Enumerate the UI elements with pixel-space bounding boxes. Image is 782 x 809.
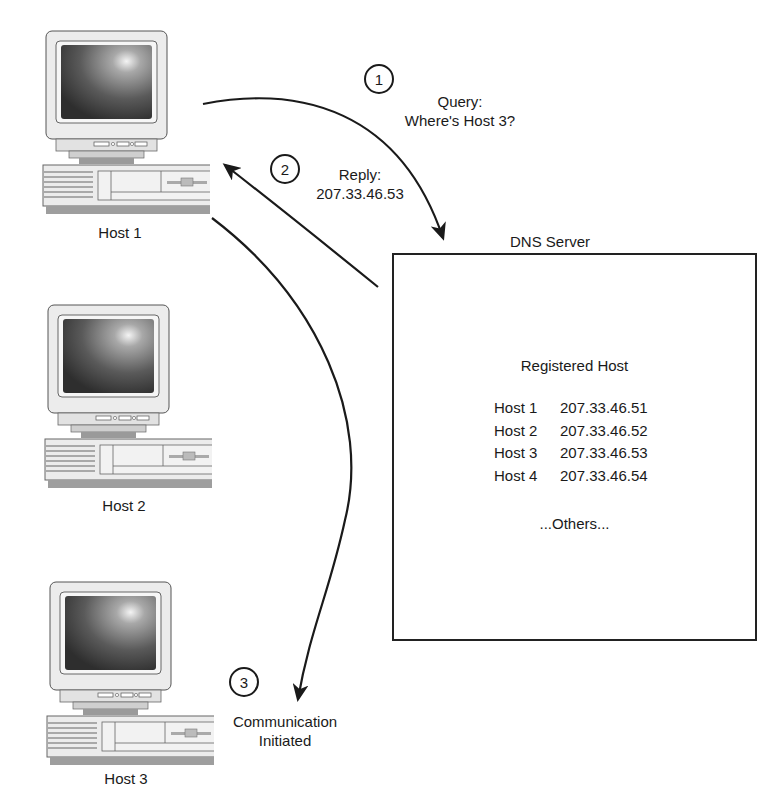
- step-2-text: Reply: 207.33.46.53: [300, 165, 420, 203]
- step-2-line2: 207.33.46.53: [300, 184, 420, 203]
- dns-server-title: DNS Server: [450, 232, 650, 251]
- step-3-number: 3: [240, 674, 248, 691]
- registry-ip: 207.33.46.54: [560, 465, 648, 488]
- registry-row: Host 3 207.33.46.53: [494, 442, 648, 465]
- step-3-badge: 3: [229, 667, 259, 697]
- registry-title: Registered Host: [394, 357, 755, 374]
- step-3-line1: Communication: [220, 712, 350, 731]
- communication-arrow: [212, 218, 351, 699]
- registry-host: Host 2: [494, 420, 560, 443]
- registry-host: Host 4: [494, 465, 560, 488]
- dns-server-box: Registered Host Host 1 207.33.46.51 Host…: [392, 253, 757, 641]
- registry-row: Host 2 207.33.46.52: [494, 420, 648, 443]
- registry-row: Host 1 207.33.46.51: [494, 397, 648, 420]
- step-1-line1: Query:: [385, 92, 535, 111]
- registry-ip: 207.33.46.52: [560, 420, 648, 443]
- registry-ip: 207.33.46.51: [560, 397, 648, 420]
- step-1-number: 1: [375, 71, 383, 88]
- registry-table: Host 1 207.33.46.51 Host 2 207.33.46.52 …: [494, 397, 648, 487]
- registry-host: Host 3: [494, 442, 560, 465]
- step-3-text: Communication Initiated: [220, 712, 350, 750]
- registry-host: Host 1: [494, 397, 560, 420]
- step-1-text: Query: Where's Host 3?: [385, 92, 535, 130]
- registry-ip: 207.33.46.53: [560, 442, 648, 465]
- registry-others: ...Others...: [394, 515, 755, 532]
- step-3-line2: Initiated: [220, 731, 350, 750]
- step-1-line2: Where's Host 3?: [385, 111, 535, 130]
- step-2-badge: 2: [270, 154, 300, 184]
- step-1-badge: 1: [364, 64, 394, 94]
- step-2-number: 2: [281, 161, 289, 178]
- step-2-line1: Reply:: [300, 165, 420, 184]
- registry-row: Host 4 207.33.46.54: [494, 465, 648, 488]
